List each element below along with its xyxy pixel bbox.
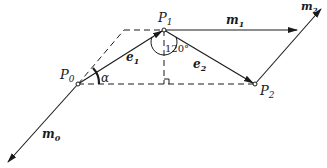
label-p1: P1	[157, 10, 172, 27]
label-alpha: α	[101, 71, 109, 85]
label-angle-120: 120°	[165, 43, 189, 54]
right-angle-marker	[164, 79, 169, 84]
vector-m2	[255, 9, 321, 84]
alpha-arc	[93, 68, 99, 84]
point-p2	[253, 82, 257, 86]
point-p0	[76, 82, 80, 86]
vector-e2	[164, 30, 253, 83]
label-e1: e1	[126, 50, 139, 66]
label-p2: P2	[259, 83, 275, 100]
vector-e1	[78, 31, 162, 84]
label-m2: m2	[301, 0, 318, 15]
label-m0: m0	[42, 127, 61, 143]
point-p1	[162, 28, 166, 32]
label-p0: P0	[59, 67, 75, 84]
label-m1: m1	[226, 13, 244, 29]
vector-m0	[8, 84, 78, 162]
robot-linkage-diagram: P0 P1 P2 e1 e2 m1 m2 m0 α 120°	[0, 0, 327, 168]
label-e2: e2	[193, 57, 207, 73]
